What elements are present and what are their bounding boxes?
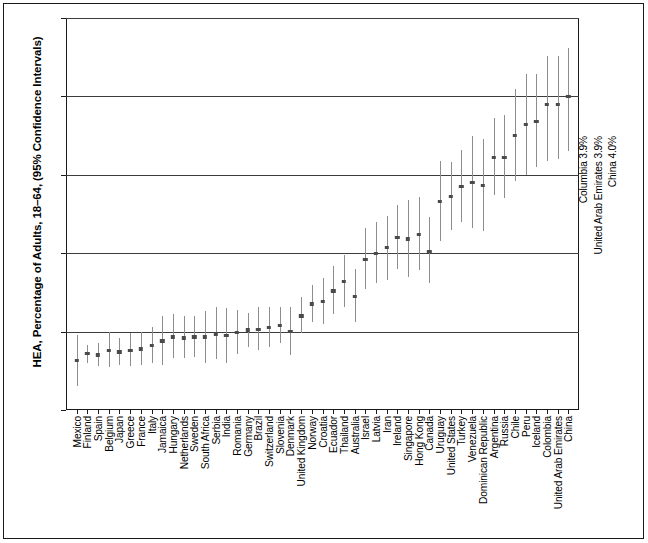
point-marker bbox=[363, 258, 367, 261]
point-marker bbox=[342, 280, 346, 283]
chart-figure: HEA, Percentage of Adults, 18–64, (95% C… bbox=[0, 0, 648, 543]
x-axis-label-iran: Iran bbox=[381, 416, 392, 433]
y-tick-mark bbox=[61, 253, 66, 254]
x-axis-label-united-kingdom: United Kingdom bbox=[296, 416, 307, 486]
point-marker bbox=[235, 331, 239, 334]
confidence-interval-bar bbox=[558, 56, 559, 159]
x-axis-label-india: India bbox=[221, 416, 232, 437]
gridline-2% bbox=[66, 253, 579, 254]
point-marker bbox=[513, 134, 517, 137]
y-tick-mark bbox=[61, 96, 66, 97]
x-axis-label-china: China bbox=[563, 416, 574, 442]
x-axis-label-norway: Norway bbox=[306, 416, 317, 450]
x-axis-label-singapore: Singapore bbox=[403, 416, 414, 461]
x-axis-label-peru: Peru bbox=[520, 416, 531, 437]
x-axis-label-brazil: Brazil bbox=[253, 416, 264, 441]
point-marker bbox=[374, 252, 378, 255]
x-axis-label-france: France bbox=[135, 416, 146, 447]
x-axis-label-sweden: Sweden bbox=[189, 416, 200, 452]
x-axis-label-south-africa: South Africa bbox=[199, 416, 210, 469]
x-axis-label-serbia: Serbia bbox=[210, 416, 221, 445]
point-marker bbox=[427, 250, 431, 253]
point-marker bbox=[320, 300, 324, 303]
point-marker bbox=[256, 328, 260, 331]
point-marker bbox=[459, 185, 463, 188]
gridline-5% bbox=[66, 18, 579, 19]
x-axis-label-netherlands: Netherlands bbox=[178, 416, 189, 469]
x-axis-label-iceland: Iceland bbox=[531, 416, 542, 448]
point-marker bbox=[278, 324, 282, 327]
point-marker bbox=[310, 302, 314, 305]
point-marker bbox=[384, 246, 388, 249]
point-marker bbox=[245, 328, 249, 331]
y-axis-title: HEA, Percentage of Adults, 18–64, (95% C… bbox=[31, 0, 43, 407]
x-axis-label-argentina: Argentina bbox=[488, 416, 499, 458]
x-axis-label-japan: Japan bbox=[114, 416, 125, 443]
x-axis-label-ecuador: Ecuador bbox=[328, 416, 339, 453]
gridline-1% bbox=[66, 332, 579, 333]
x-axis-label-russia: Russia bbox=[499, 416, 510, 446]
point-marker bbox=[416, 233, 420, 236]
plot-frame bbox=[66, 18, 579, 410]
x-axis-label-hungary: Hungary bbox=[167, 416, 178, 453]
point-marker bbox=[267, 326, 271, 329]
point-marker bbox=[449, 195, 453, 198]
point-marker bbox=[352, 295, 356, 298]
point-marker bbox=[117, 350, 121, 353]
point-marker bbox=[74, 359, 78, 362]
point-marker bbox=[203, 335, 207, 338]
x-axis-label-jamaica: Jamaica bbox=[157, 416, 168, 453]
x-axis-label-finland: Finland bbox=[82, 416, 93, 448]
point-marker bbox=[406, 237, 410, 240]
point-marker bbox=[139, 347, 143, 350]
x-axis-label-thailand: Thailand bbox=[338, 416, 349, 454]
x-axis-label-israel: Israel bbox=[360, 416, 371, 440]
point-marker bbox=[224, 334, 228, 337]
point-marker bbox=[470, 181, 474, 184]
point-marker bbox=[491, 156, 495, 159]
x-axis-label-venezuela: Venezuela bbox=[467, 416, 478, 462]
x-axis-label-colombia: Colombia bbox=[541, 416, 552, 458]
point-marker bbox=[331, 289, 335, 292]
confidence-interval-bar bbox=[547, 56, 548, 161]
x-axis-label-switzerland: Switzerland bbox=[264, 416, 275, 467]
point-marker bbox=[181, 336, 185, 339]
point-marker bbox=[213, 332, 217, 335]
point-marker bbox=[395, 236, 399, 239]
point-marker bbox=[545, 103, 549, 106]
top-right-annotations: Columbia 3.9%United Arab Emirates 3.9%Ch… bbox=[566, 14, 642, 144]
x-axis-label-spain: Spain bbox=[93, 416, 104, 441]
gridline-3% bbox=[66, 175, 579, 176]
x-axis-label-denmark: Denmark bbox=[285, 416, 296, 456]
point-marker bbox=[481, 184, 485, 187]
annotation-2: China 4.0% bbox=[607, 136, 618, 187]
y-tick-mark bbox=[61, 332, 66, 333]
point-marker bbox=[299, 314, 303, 317]
point-marker bbox=[288, 330, 292, 333]
point-marker bbox=[534, 120, 538, 123]
y-tick-mark bbox=[61, 175, 66, 176]
point-marker bbox=[523, 123, 527, 126]
x-axis-label-greece: Greece bbox=[125, 416, 136, 449]
point-marker bbox=[107, 349, 111, 352]
point-marker bbox=[192, 335, 196, 338]
x-axis-label-dominican-republic: Dominican Republic bbox=[477, 416, 488, 504]
point-marker bbox=[128, 349, 132, 352]
x-axis-label-chile: Chile bbox=[509, 416, 520, 438]
x-axis-label-romania: Romania bbox=[232, 416, 243, 456]
x-axis-label-turkey: Turkey bbox=[456, 416, 467, 446]
point-marker bbox=[502, 156, 506, 159]
point-marker bbox=[171, 335, 175, 338]
x-axis-label-italy: Italy bbox=[146, 416, 157, 434]
y-tick-mark bbox=[61, 18, 66, 19]
point-marker bbox=[85, 352, 89, 355]
x-axis-label-united-arab-emirates: United Arab Emirates bbox=[552, 416, 563, 509]
point-marker bbox=[96, 353, 100, 356]
x-axis-label-australia: Australia bbox=[349, 416, 360, 454]
y-tick-mark bbox=[61, 410, 66, 411]
x-axis-label-latvia: Latvia bbox=[370, 416, 381, 442]
annotation-1: United Arab Emirates 3.9% bbox=[593, 136, 604, 255]
x-axis-label-canada: Canada bbox=[424, 416, 435, 451]
x-axis-label-croatia: Croatia bbox=[317, 416, 328, 448]
point-marker bbox=[555, 103, 559, 106]
